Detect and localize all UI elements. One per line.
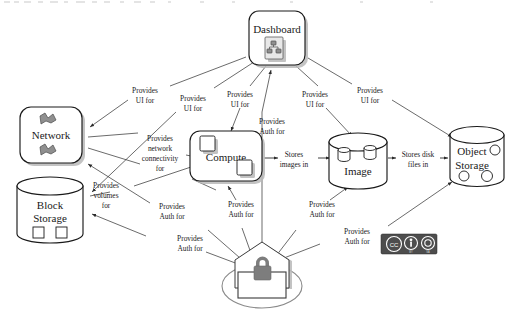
edge-dashboard-object-storage [308, 58, 452, 137]
scan-artifact [4, 1, 433, 3]
edge-label-line: UI for [306, 100, 325, 109]
label-identity-network: Provides Auth for [159, 202, 185, 221]
node-label: Storage [455, 159, 489, 171]
edge-label-line: UI for [136, 96, 155, 105]
label-dashboard-network: Provides UI for [132, 86, 158, 105]
edge-label-line: for [102, 201, 111, 210]
edge-label-line: UI for [361, 96, 380, 105]
edge-label-line: volumes [93, 191, 118, 200]
edge-identity-compute [228, 186, 252, 256]
edge-label-line: Provides [93, 181, 119, 190]
edge-label-line: Auth for [228, 210, 254, 219]
edge-label-line: Provides [259, 117, 285, 126]
edge-label-line: Auth for [344, 237, 370, 246]
node-image[interactable]: Image [329, 133, 387, 189]
edge-label-line: Provides [228, 200, 254, 209]
edge-label-line: Provides [132, 86, 158, 95]
node-object-storage[interactable]: Object Storage [450, 127, 504, 187]
label-dashboard-image: Provides UI for [302, 90, 328, 109]
edge-label-line: Provides [357, 86, 383, 95]
node-compute[interactable]: Compute [190, 131, 265, 184]
label-identity-block-storage: Provides Auth for [177, 234, 203, 253]
edge-label-line: Provides [159, 202, 185, 211]
label-compute-image: Stores images in [280, 150, 309, 169]
node-identity[interactable] [222, 242, 302, 308]
node-network[interactable]: Network [20, 107, 85, 166]
label-identity-object-storage: Provides Auth for [344, 227, 370, 246]
edge-label-line: Auth for [177, 244, 203, 253]
cc-by-text: BY [409, 250, 413, 254]
node-dashboard[interactable]: Dashboard [249, 11, 308, 68]
edge-identity-block-storage [92, 214, 238, 264]
edge-label-line: Provides [147, 134, 173, 143]
edge-label-line: Provides [309, 200, 335, 209]
edge-label-line: Provides [302, 90, 328, 99]
edge-label-line: UI for [184, 104, 203, 113]
label-identity-image: Provides Auth for [309, 200, 335, 219]
edge-label-line: for [156, 164, 165, 173]
openstack-conceptual-architecture-diagram: Provides UI for Provides UI for Provides… [0, 0, 518, 318]
creative-commons-by-sa-badge[interactable]: CC BY SA [381, 234, 437, 254]
edge-label-line: Auth for [259, 127, 285, 136]
edge-label-line: connectivity [142, 154, 179, 163]
node-label: Object [457, 145, 486, 157]
label-identity-dashboard: Provides Auth for [259, 117, 285, 136]
node-block-storage[interactable]: Block Storage [17, 177, 83, 243]
edge-label-line: Stores disk [402, 150, 435, 159]
node-label: Image [344, 165, 372, 177]
label-dashboard-object-storage: Provides UI for [357, 86, 383, 105]
edge-label-line: images in [280, 160, 309, 169]
edge-label-line: network [148, 144, 173, 153]
label-identity-compute: Provides Auth for [228, 200, 254, 219]
edge-label-line: Provides [227, 90, 253, 99]
node-label: Dashboard [253, 23, 301, 35]
label-network-compute: Provides network connectivity for [142, 134, 179, 173]
edge-label-line: Provides [180, 94, 206, 103]
cc-glyph-text: CC [390, 242, 399, 248]
edge-label-line: Provides [344, 227, 370, 236]
cc-sa-text: SA [426, 250, 430, 254]
label-dashboard-block-storage: Provides UI for [180, 94, 206, 113]
node-label: Block [37, 199, 64, 211]
label-dashboard-compute-ui: Provides UI for [227, 90, 253, 109]
edge-identity-image [276, 187, 348, 256]
edge-label-line: files in [408, 160, 429, 169]
document-chart-icon [265, 37, 286, 62]
edge-dashboard-network [90, 57, 246, 127]
edge-label-line: Auth for [309, 210, 335, 219]
edge-label-line: Stores [285, 150, 304, 159]
node-label: Network [32, 129, 71, 141]
label-image-object-storage: Stores disk files in [402, 150, 435, 169]
label-block-storage-compute: Provides volumes for [93, 181, 119, 210]
edge-label-line: UI for [231, 100, 250, 109]
diagram-canvas: Provides UI for Provides UI for Provides… [0, 0, 518, 318]
edge-label-line: Provides [177, 234, 203, 243]
edge-label-line: Auth for [159, 212, 185, 221]
node-label: Storage [33, 212, 67, 224]
